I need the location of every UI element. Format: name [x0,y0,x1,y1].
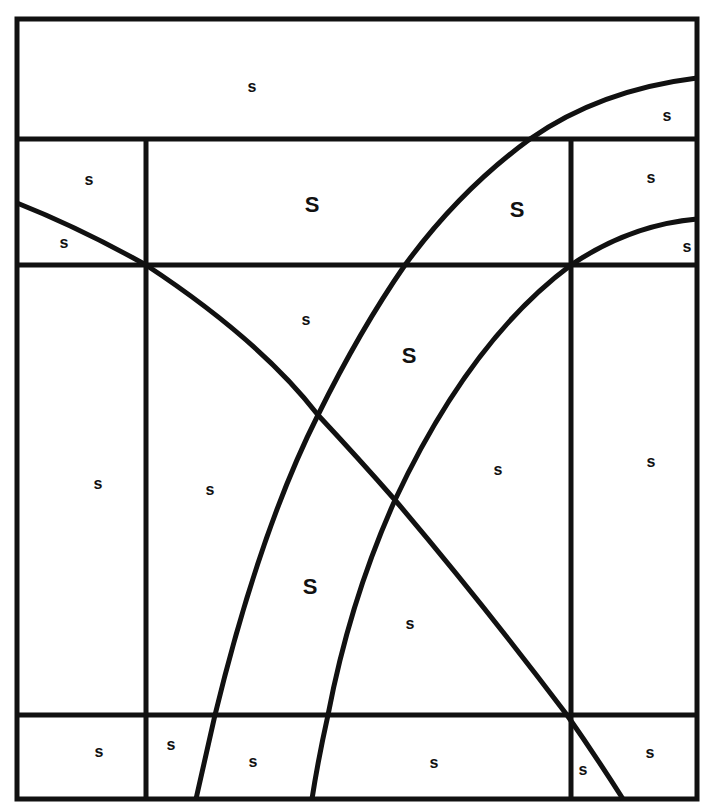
outer-frame [17,19,697,799]
region-label: s [167,737,176,753]
region-label: s [406,616,415,632]
horizontal-divider-lines [17,139,697,715]
region-label: s [248,79,257,95]
region-label: s [646,745,655,761]
region-label: s [302,312,311,328]
region-label: s [95,744,104,760]
outer-rising-curve [196,78,697,799]
region-label: S [510,199,525,221]
region-label: s [94,476,103,492]
region-label: s [647,170,656,186]
region-label: s [683,239,692,255]
region-label: S [303,576,318,598]
region-label: s [647,454,656,470]
region-label: s [60,235,69,251]
region-label: s [494,462,503,478]
region-label: S [402,345,417,367]
region-label: s [430,755,439,771]
region-diagram [0,0,712,802]
curved-lines [17,78,697,799]
region-label: s [206,482,215,498]
region-label: s [663,108,672,124]
vertical-divider-lines [146,139,571,799]
region-label: s [85,172,94,188]
region-label: S [305,194,320,216]
region-label: s [579,762,588,778]
descending-curve [17,203,623,799]
region-label: s [249,754,258,770]
inner-rising-curve [312,219,697,799]
